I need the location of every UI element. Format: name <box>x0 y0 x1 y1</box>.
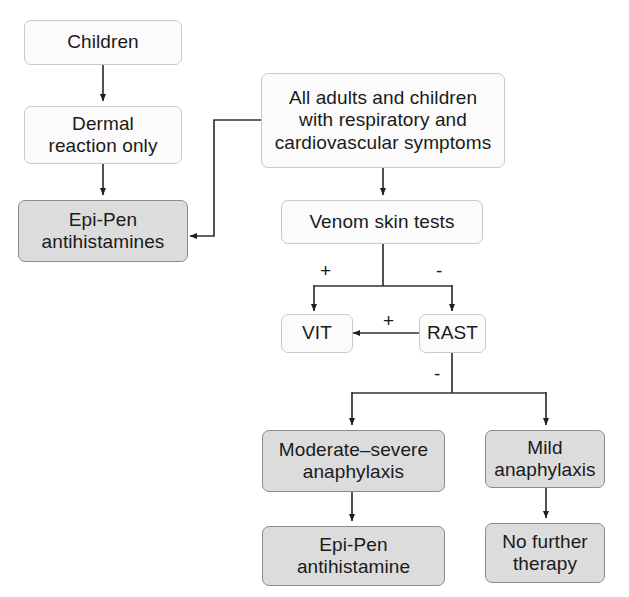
node-epipen-antihistamine-label: Epi-Pen antihistamine <box>291 534 416 579</box>
edge-label-rast-negative: - <box>434 364 440 383</box>
node-moderate-severe-anaphylaxis[interactable]: Moderate–severe anaphylaxis <box>262 430 445 492</box>
node-children-label: Children <box>61 31 145 53</box>
node-moderate-severe-anaphylaxis-label: Moderate–severe anaphylaxis <box>273 439 434 484</box>
node-children[interactable]: Children <box>24 20 182 65</box>
edge-label-skin-test-positive: + <box>320 261 331 280</box>
node-all-adults-children[interactable]: All adults and children with respiratory… <box>261 73 505 168</box>
node-vit[interactable]: VIT <box>281 314 353 353</box>
edge-label-rast-positive: + <box>383 311 394 330</box>
node-venom-skin-tests-label: Venom skin tests <box>303 211 460 233</box>
edge-alladults-to-epipen <box>190 120 261 236</box>
node-rast[interactable]: RAST <box>419 314 486 353</box>
node-dermal-reaction-label: Dermal reaction only <box>42 113 163 158</box>
edge-label-rast-positive-text: + <box>383 310 394 331</box>
edge-label-skin-test-negative-text: - <box>436 260 442 281</box>
node-vit-label: VIT <box>296 322 338 344</box>
node-epipen-antihistamine[interactable]: Epi-Pen antihistamine <box>262 526 445 586</box>
node-no-further-therapy[interactable]: No further therapy <box>485 523 605 583</box>
node-all-adults-children-label: All adults and children with respiratory… <box>269 87 498 154</box>
edge-label-skin-test-positive-text: + <box>320 260 331 281</box>
node-epipen-antihistamines[interactable]: Epi-Pen antihistamines <box>18 200 188 262</box>
node-rast-label: RAST <box>421 322 484 344</box>
node-venom-skin-tests[interactable]: Venom skin tests <box>281 200 483 244</box>
node-epipen-antihistamines-label: Epi-Pen antihistamines <box>36 209 171 254</box>
edge-label-rast-negative-text: - <box>434 363 440 384</box>
node-no-further-therapy-label: No further therapy <box>496 531 593 576</box>
flowchart-canvas: Children Dermal reaction only Epi-Pen an… <box>0 0 629 597</box>
node-mild-anaphylaxis-label: Mild anaphylaxis <box>488 437 601 482</box>
edge-label-skin-test-negative: - <box>436 261 442 280</box>
node-dermal-reaction[interactable]: Dermal reaction only <box>24 106 182 164</box>
node-mild-anaphylaxis[interactable]: Mild anaphylaxis <box>485 430 605 488</box>
